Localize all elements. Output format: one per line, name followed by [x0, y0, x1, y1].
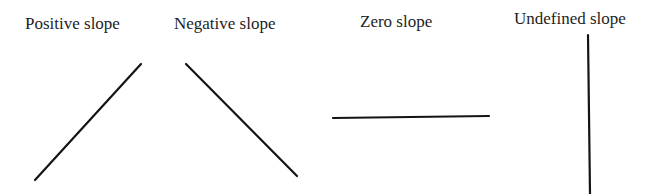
- slope-diagram: Positive slope Negative slope Zero slope…: [0, 0, 670, 194]
- positive-slope-line: [35, 64, 141, 180]
- undefined-slope-line: [588, 35, 590, 194]
- negative-slope-line: [186, 64, 297, 176]
- slope-lines: [0, 0, 670, 194]
- zero-slope-line: [333, 116, 489, 118]
